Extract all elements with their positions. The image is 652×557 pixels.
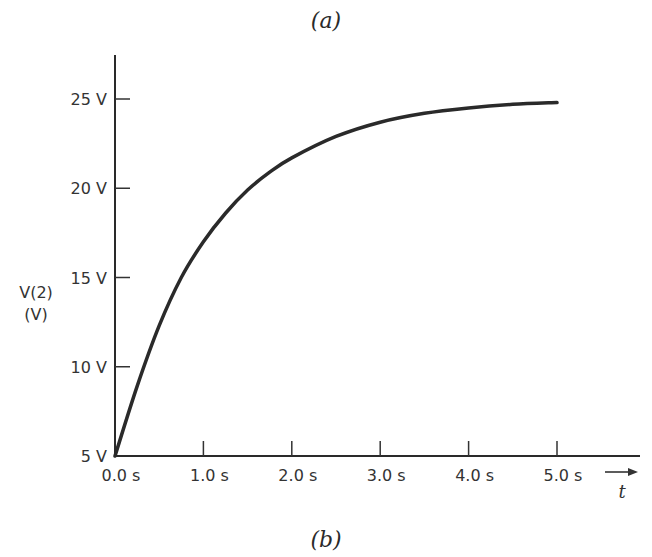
x-tick-label: 3.0 s <box>367 466 406 485</box>
x-tick-label: 1.0 s <box>190 466 229 485</box>
y-axis-unit: (V) <box>24 305 47 324</box>
x-tick-label: 4.0 s <box>455 466 494 485</box>
y-axis-label: V(2) <box>19 283 53 302</box>
x-axis-label: t <box>618 481 626 502</box>
y-tick-label: 5 V <box>81 447 107 466</box>
y-tick-label: 25 V <box>71 90 107 109</box>
y-tick-label: 10 V <box>71 358 107 377</box>
voltage-curve <box>115 103 557 456</box>
y-tick-label: 15 V <box>71 269 107 288</box>
caption-top: (a) <box>311 8 341 33</box>
t-arrow-icon <box>605 468 638 476</box>
x-tick-label: 5.0 s <box>544 466 583 485</box>
y-tick-label: 20 V <box>71 179 107 198</box>
x-tick-label: 0.0 s <box>102 466 141 485</box>
x-tick-label: 2.0 s <box>278 466 317 485</box>
voltage-chart: (a) 5 V10 V15 V20 V25 V0.0 s1.0 s2.0 s3.… <box>0 0 652 557</box>
ticks: 5 V10 V15 V20 V25 V0.0 s1.0 s2.0 s3.0 s4… <box>71 90 583 485</box>
caption-bottom: (b) <box>310 527 341 552</box>
